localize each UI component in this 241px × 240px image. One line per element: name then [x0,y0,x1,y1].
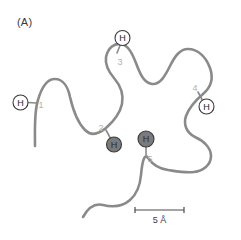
hydrogen-tether-h2 [106,130,110,138]
hydrogen-label-h1: H [17,98,24,108]
hydrogen-marker-h2: H [107,137,122,152]
residue-label-4: 4 [192,83,197,93]
hydrogen-label-h2: H [111,140,118,150]
hydrogen-label-h4: H [203,102,210,112]
residue-label-2: 2 [98,123,103,133]
hydrogen-marker-h5: H [138,131,154,147]
hydrogen-marker-h4: H [199,99,214,114]
scale-bar [135,207,184,213]
scale-bar-label: 5 Å [135,215,184,225]
figure-panel: (A) 12345 HHHHH 5 Å [0,0,241,240]
hydrogen-tether-h1 [28,103,36,104]
hydrogen-label-h3: H [119,33,126,43]
hydrogen-tether-h3 [117,46,120,54]
chain-diagram-svg: 12345 HHHHH [0,0,241,240]
hydrogen-marker-h3: H [115,31,130,46]
residue-label-3: 3 [117,57,122,67]
hydrogen-label-h5: H [143,134,150,144]
hydrogen-marker-h1: H [13,95,28,110]
residue-label-1: 1 [38,100,43,110]
residue-label-5: 5 [147,154,152,164]
polypeptide-chain-path [35,44,212,217]
